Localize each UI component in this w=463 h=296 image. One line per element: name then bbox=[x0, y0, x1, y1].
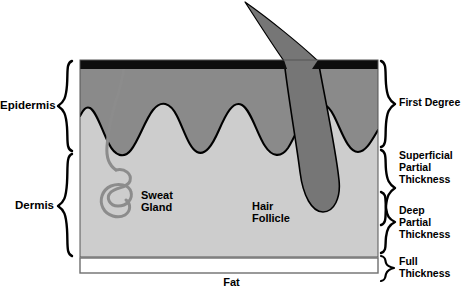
label-sweat-gland: Sweat Gland bbox=[141, 189, 173, 214]
hair-shaft-group bbox=[245, 2, 318, 61]
label-deep-partial-thickness: Deep Partial Thickness bbox=[399, 205, 463, 240]
label-superficial-partial-thickness: Superficial Partial Thickness bbox=[399, 150, 463, 185]
diagram-canvas bbox=[0, 0, 463, 296]
hair-shaft-through-corneum bbox=[284, 60, 318, 69]
brace-first-degree bbox=[381, 61, 395, 147]
label-epidermis: Epidermis bbox=[0, 99, 54, 112]
brace-epidermis bbox=[58, 61, 72, 151]
label-fat: Fat bbox=[0, 276, 463, 288]
label-hair-follicle: Hair Follicle bbox=[252, 200, 290, 225]
fat-layer bbox=[80, 258, 378, 273]
hair-shaft bbox=[245, 2, 318, 61]
label-dermis: Dermis bbox=[0, 199, 54, 212]
label-first-degree: First Degree bbox=[399, 97, 463, 109]
stratum-corneum-band bbox=[80, 60, 378, 69]
skin-burn-depth-diagram: Epidermis Dermis First Degree Superficia… bbox=[0, 0, 463, 296]
brace-dermis bbox=[58, 154, 72, 256]
